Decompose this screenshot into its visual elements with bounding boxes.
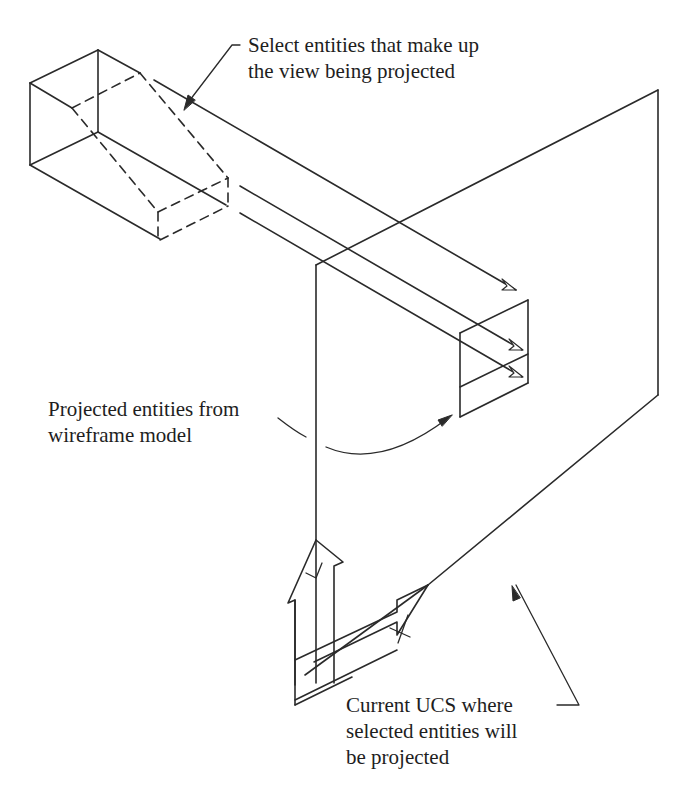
projection-arrowhead-1 [502,279,516,290]
label-select-entities-line1: Select entities that make up [248,32,479,58]
label-select-entities-line2: the view being projected [248,58,479,84]
label-current-ucs-line2: selected entities will [346,718,517,744]
label-current-ucs-line1: Current UCS where [346,692,517,718]
projected-view [460,300,528,417]
label-select-entities: Select entities that make up the view be… [248,32,479,84]
leader-projected-entities [278,415,452,454]
label-current-ucs: Current UCS where selected entities will… [346,692,517,770]
leader-current-ucs [512,585,579,705]
label-projected-entities: Projected entities from wireframe model [48,396,239,448]
leader-select-entities [184,45,240,110]
wireframe-model [30,50,228,240]
projection-lines [154,80,523,377]
projection-diagram [0,0,675,789]
label-current-ucs-line3: be projected [346,744,517,770]
ucs-plane [316,90,658,585]
label-projected-entities-line1: Projected entities from [48,396,239,422]
label-projected-entities-line2: wireframe model [48,422,239,448]
ucs-icon [288,540,428,705]
